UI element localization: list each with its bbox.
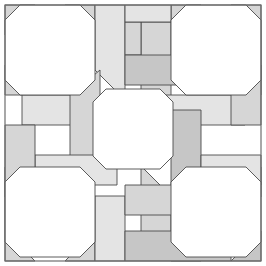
- tiling-diagram: [0, 0, 266, 266]
- plank-top-center-horizontal: [125, 22, 141, 55]
- plank-bottom-center-left-vertical: [95, 196, 125, 261]
- tiling-figure-root: [0, 0, 266, 266]
- octagon-center: [93, 89, 173, 169]
- octagon-top-left: [5, 5, 95, 95]
- octagon-bottom-right: [171, 167, 261, 257]
- octagon-top-right: [171, 5, 261, 95]
- octagon-bottom-left: [5, 167, 95, 257]
- plank-top-left-bar: [125, 5, 171, 22]
